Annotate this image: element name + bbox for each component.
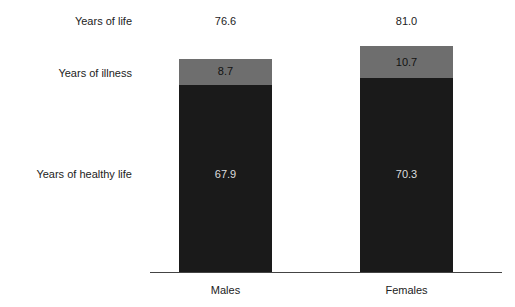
females-healthy-value: 70.3 [360,168,453,180]
females-total-label: 81.0 [360,15,453,27]
chart: Years of life Years of illness Years of … [0,0,515,307]
category-females: Females [360,284,453,296]
x-axis-line [150,272,502,273]
row-label-years-of-life: Years of life [75,15,132,27]
males-illness-value: 8.7 [179,65,272,77]
males-healthy-value: 67.9 [179,168,272,180]
row-label-years-of-healthy-life: Years of healthy life [36,168,132,180]
row-label-years-of-illness: Years of illness [58,67,132,79]
females-illness-value: 10.7 [360,56,453,68]
males-total-label: 76.6 [179,15,272,27]
category-males: Males [179,284,272,296]
